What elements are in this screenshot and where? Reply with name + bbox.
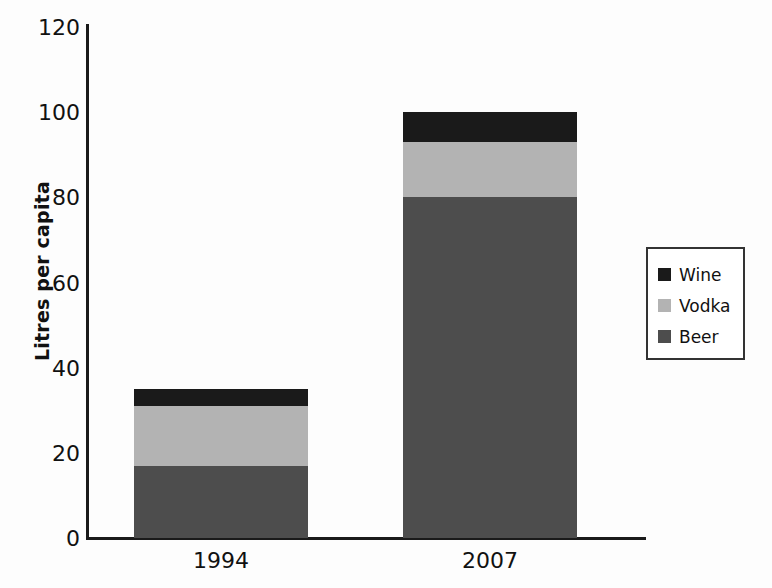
y-tick-label-20: 20 bbox=[4, 441, 80, 466]
bar-segment-1994-beer[interactable] bbox=[134, 466, 308, 538]
bar-segment-2007-wine[interactable] bbox=[403, 112, 577, 142]
bar-segment-1994-vodka[interactable] bbox=[134, 406, 308, 466]
legend-swatch-wine-icon bbox=[658, 268, 671, 281]
y-tick-label-60: 60 bbox=[4, 271, 80, 296]
legend-label-wine: Wine bbox=[679, 265, 721, 285]
legend-swatch-vodka-icon bbox=[658, 299, 671, 312]
bar-1994[interactable] bbox=[134, 389, 308, 538]
legend-swatch-beer-icon bbox=[658, 330, 671, 343]
legend-item-vodka[interactable]: Vodka bbox=[658, 290, 743, 321]
legend-item-beer[interactable]: Beer bbox=[658, 321, 743, 352]
y-tick-label-0: 0 bbox=[4, 526, 80, 551]
y-tick-label-80: 80 bbox=[4, 185, 80, 210]
y-tick-label-40: 40 bbox=[4, 356, 80, 381]
y-tick-label-100: 100 bbox=[4, 100, 80, 125]
legend-item-wine[interactable]: Wine bbox=[658, 259, 743, 290]
bar-segment-1994-wine[interactable] bbox=[134, 389, 308, 406]
x-tick-label-2007: 2007 bbox=[390, 548, 590, 573]
bar-segment-2007-vodka[interactable] bbox=[403, 142, 577, 197]
bar-segment-2007-beer[interactable] bbox=[403, 197, 577, 538]
x-tick-label-1994: 1994 bbox=[121, 548, 321, 573]
y-tick-label-120: 120 bbox=[4, 15, 80, 40]
legend-label-beer: Beer bbox=[679, 327, 719, 347]
legend-label-vodka: Vodka bbox=[679, 296, 730, 316]
chart-canvas: Litres per capita 120 100 80 60 40 20 0 … bbox=[0, 0, 772, 588]
y-axis-tick-labels: 120 100 80 60 40 20 0 bbox=[0, 0, 80, 588]
chart-legend: Wine Vodka Beer bbox=[646, 247, 745, 360]
y-axis-line bbox=[86, 24, 89, 540]
bar-2007[interactable] bbox=[403, 112, 577, 538]
